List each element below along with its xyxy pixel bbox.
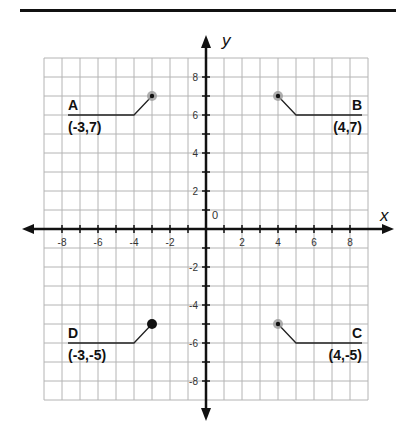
point-coordinate-label: (-3,-5) [68,347,106,363]
x-axis-label: x [379,206,389,225]
x-axis-right-arrow-icon [382,224,394,234]
point-name-label: B [352,97,362,113]
origin-label: 0 [212,209,218,221]
point-coordinate-label: (-3,7) [68,119,101,135]
y-tick-label: -8 [189,376,198,387]
y-tick-label: 4 [192,148,198,159]
y-tick-label: -6 [189,338,198,349]
x-tick-label: 2 [239,237,245,248]
leader-line [278,96,362,115]
x-tick-label: -4 [130,237,139,248]
point-coordinate-label: (4,7) [333,119,362,135]
x-tick-label: -8 [58,237,67,248]
coordinate-plane: -8-6-4-224688642-2-4-6-8 A(-3,7)B(4,7)C(… [0,0,413,442]
point-name-label: D [68,325,78,341]
x-tick-label: 8 [347,237,353,248]
points: A(-3,7)B(4,7)C(4,-5)D(-3,-5) [68,91,362,363]
axes [22,35,394,421]
point-name-label: C [352,325,362,341]
y-tick-label: -2 [189,262,198,273]
point-marker-icon [276,322,280,326]
point-b: B(4,7) [273,91,362,135]
point-d: D(-3,-5) [68,319,157,363]
y-axis-down-arrow-icon [201,408,211,421]
point-a: A(-3,7) [68,91,157,135]
y-tick-label: 2 [192,186,198,197]
y-axis-label: y [221,31,232,50]
leader-line [68,96,152,115]
leader-line [68,324,152,343]
y-axis-up-arrow-icon [201,35,211,48]
y-tick-label: -4 [189,300,198,311]
y-tick-label: 8 [192,72,198,83]
x-tick-label: 4 [275,237,281,248]
x-tick-label: 6 [311,237,317,248]
leader-line [278,324,362,343]
point-marker-icon [147,319,157,329]
x-tick-label: -2 [166,237,175,248]
point-marker-icon [150,94,154,98]
point-name-label: A [68,97,78,113]
x-tick-label: -6 [94,237,103,248]
point-c: C(4,-5) [273,319,362,363]
point-marker-icon [276,94,280,98]
x-axis-left-arrow-icon [22,224,34,234]
point-coordinate-label: (4,-5) [329,347,362,363]
y-tick-label: 6 [192,110,198,121]
